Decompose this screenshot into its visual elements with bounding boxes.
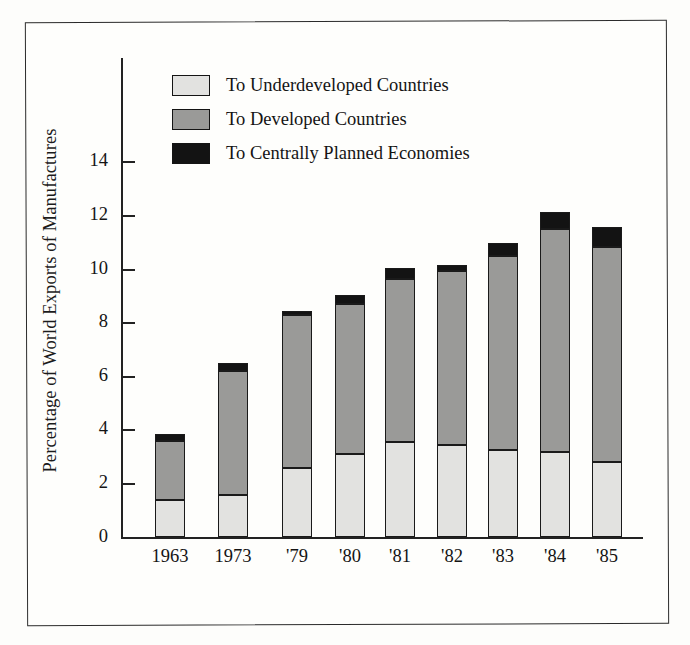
x-tick-label: '85 [567, 546, 647, 567]
chart-plot-area: Percentage of World Exports of Manufactu… [0, 0, 690, 645]
y-tick-12 [123, 215, 135, 217]
bar-segment-developed [335, 304, 365, 454]
y-tick-0 [123, 537, 135, 539]
y-tick-label: 0 [68, 526, 108, 547]
y-tick-4 [123, 429, 135, 431]
y-tick-2 [123, 483, 135, 485]
bar-segment-underdeveloped [335, 454, 365, 537]
bar-segment-centrally-planned [335, 295, 365, 304]
bar-segment-centrally-planned [592, 227, 622, 247]
legend-item-centrally_planned: To Centrally Planned Economies [172, 136, 470, 170]
y-tick-6 [123, 376, 135, 378]
bar-segment-developed [540, 229, 570, 451]
y-tick-label: 8 [68, 311, 108, 332]
bar-segment-developed [385, 279, 415, 442]
bar-segment-developed [155, 441, 185, 500]
legend-item-developed: To Developed Countries [172, 102, 470, 136]
y-tick-10 [123, 269, 135, 271]
y-tick-label: 10 [68, 258, 108, 279]
figure-page: Percentage of World Exports of Manufactu… [0, 0, 690, 645]
bar-segment-developed [592, 247, 622, 463]
bar-segment-developed [282, 315, 312, 468]
chart-legend: To Underdeveloped CountriesTo Developed … [172, 68, 470, 170]
bar-segment-underdeveloped [488, 450, 518, 537]
bar-segment-developed [488, 256, 518, 450]
bar-segment-centrally-planned [155, 434, 185, 441]
y-axis-line [121, 58, 123, 539]
bar-segment-centrally-planned [437, 265, 467, 270]
y-tick-label: 4 [68, 418, 108, 439]
bar-segment-centrally-planned [218, 363, 248, 371]
y-tick-label: 6 [68, 365, 108, 386]
y-tick-label: 12 [68, 204, 108, 225]
y-tick-label: 14 [68, 150, 108, 171]
y-tick-label: 2 [68, 472, 108, 493]
bar-segment-underdeveloped [218, 495, 248, 538]
bar-segment-developed [437, 271, 467, 445]
bar-segment-centrally-planned [385, 268, 415, 279]
bar-segment-developed [218, 371, 248, 494]
bar-segment-centrally-planned [540, 212, 570, 229]
bar-segment-centrally-planned [488, 243, 518, 256]
bar-segment-underdeveloped [540, 452, 570, 538]
legend-swatch-developed [172, 109, 210, 130]
legend-label-developed: To Developed Countries [226, 109, 407, 130]
y-tick-14 [123, 161, 135, 163]
bar-segment-underdeveloped [592, 462, 622, 537]
y-axis-title: Percentage of World Exports of Manufactu… [40, 101, 61, 501]
legend-swatch-underdeveloped [172, 75, 210, 96]
bar-segment-underdeveloped [155, 500, 185, 538]
legend-label-underdeveloped: To Underdeveloped Countries [226, 75, 449, 96]
bar-segment-underdeveloped [385, 442, 415, 537]
bar-segment-centrally-planned [282, 311, 312, 315]
bar-segment-underdeveloped [437, 445, 467, 537]
legend-label-centrally_planned: To Centrally Planned Economies [226, 143, 470, 164]
legend-item-underdeveloped: To Underdeveloped Countries [172, 68, 470, 102]
y-tick-8 [123, 322, 135, 324]
legend-swatch-centrally_planned [172, 143, 210, 164]
bar-segment-underdeveloped [282, 468, 312, 538]
